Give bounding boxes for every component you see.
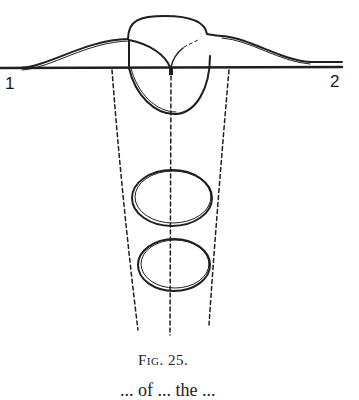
point-label-2: 2 xyxy=(330,72,339,92)
guide-left xyxy=(112,70,138,330)
inner-arc xyxy=(129,40,170,67)
lower-loop xyxy=(129,40,210,114)
figure-caption: Fig. 25. xyxy=(138,352,188,369)
outer-contour xyxy=(20,16,342,68)
clipped-body-text: ... of ... the ... xyxy=(120,380,215,400)
point-label-1: 1 xyxy=(5,74,14,94)
guide-center xyxy=(170,76,171,335)
